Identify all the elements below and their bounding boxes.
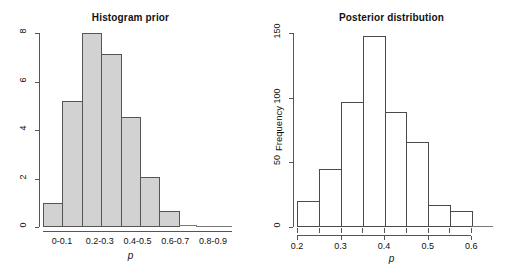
bar-series-posterior: [297, 33, 493, 227]
figure-two-histograms: Histogram prior 02468 0-0.10.2-0.30.4-0.…: [0, 0, 522, 274]
panel-title-posterior: Posterior distribution: [261, 12, 522, 23]
y-axis-tick-label: 4: [13, 123, 33, 133]
bar: [43, 203, 63, 227]
bar: [101, 54, 121, 227]
x-axis-bin-tick: [297, 228, 298, 233]
x-axis-tick-label: 0.8-0.9: [181, 236, 245, 246]
x-axis-tick-label: 0.6: [451, 241, 491, 251]
bar: [341, 102, 364, 227]
panel-posterior-distribution: Posterior distribution 050100150 Frequen…: [261, 0, 522, 274]
x-axis-tick-label: 0.5: [408, 241, 448, 251]
plot-area-prior: [43, 33, 232, 227]
y-axis-tick: [289, 33, 293, 34]
x-axis-tick: [341, 236, 342, 240]
x-axis-tick: [297, 236, 298, 240]
x-axis-tick-label: 0.4: [364, 241, 404, 251]
plot-area-posterior: [297, 33, 493, 227]
bar: [319, 169, 342, 227]
y-axis-line-prior: [39, 33, 40, 227]
x-axis-bin-tick: [428, 228, 429, 233]
y-axis-tick: [35, 227, 39, 228]
y-axis-tick-label: 2: [13, 172, 33, 182]
y-axis-line-posterior: [293, 33, 294, 227]
bar: [450, 211, 473, 227]
y-axis-tick-label: 150: [267, 26, 287, 36]
y-axis-tick: [35, 130, 39, 131]
bar: [159, 211, 179, 227]
bar: [428, 205, 451, 227]
bar-series-prior: [43, 33, 232, 227]
panel-title-prior: Histogram prior: [0, 12, 261, 23]
y-axis-tick: [35, 82, 39, 83]
bar: [196, 226, 214, 227]
x-axis-tick: [428, 236, 429, 240]
x-axis-label-posterior: p: [261, 253, 522, 264]
x-axis-bin-tick: [406, 228, 407, 233]
bar: [179, 225, 197, 227]
y-axis-label-posterior: Frequency: [273, 99, 284, 159]
y-axis-tick: [35, 33, 39, 34]
bar: [140, 177, 160, 227]
bar: [385, 112, 408, 227]
y-axis-tick-label: 6: [13, 75, 33, 85]
y-axis-tick-label: 0: [13, 220, 33, 230]
bar: [297, 201, 320, 227]
panel-histogram-prior: Histogram prior 02468 0-0.10.2-0.30.4-0.…: [0, 0, 261, 274]
x-axis-bin-tick: [471, 228, 472, 233]
x-axis-tick: [384, 236, 385, 240]
bar: [472, 226, 493, 227]
y-axis-tick: [289, 98, 293, 99]
x-axis-label-prior: p: [0, 250, 261, 261]
x-axis-bin-tick: [341, 228, 342, 233]
bar: [62, 101, 82, 227]
y-axis-tick-label: 0: [267, 220, 287, 230]
bar: [82, 33, 102, 227]
bar: [214, 226, 232, 227]
bar: [363, 36, 386, 227]
x-axis-bin-tick: [362, 228, 363, 233]
x-axis-tick: [471, 236, 472, 240]
y-axis-tick: [289, 227, 293, 228]
x-axis-tick-label: 0.3: [321, 241, 361, 251]
bar: [121, 117, 141, 227]
y-axis-tick: [289, 162, 293, 163]
x-axis-line-prior: [43, 231, 232, 232]
x-axis-tick-label: 0.2: [277, 241, 317, 251]
x-axis-bin-tick: [384, 228, 385, 233]
y-axis-tick-label: 8: [13, 26, 33, 36]
x-axis-bin-tick: [449, 228, 450, 233]
y-axis-tick: [35, 179, 39, 180]
bar: [406, 142, 429, 227]
x-axis-bin-tick: [319, 228, 320, 233]
